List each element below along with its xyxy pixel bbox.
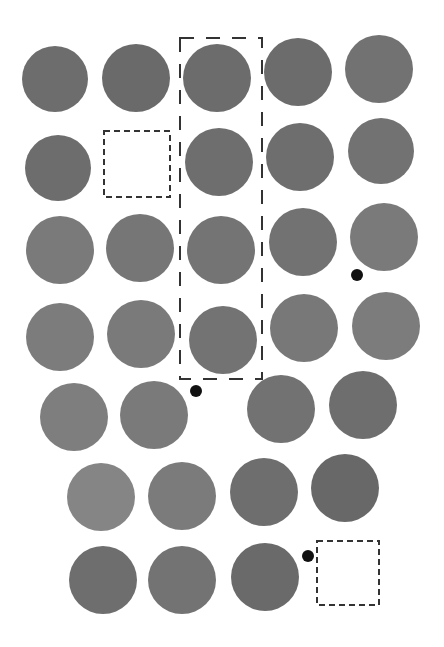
- sample-circle-r6-c3: [230, 458, 298, 526]
- sample-circle-r1-c4: [264, 38, 332, 106]
- sample-circle-r3-c5: [350, 203, 418, 271]
- sample-circle-r3-c3: [187, 216, 255, 284]
- sample-circle-r6-c2: [148, 462, 216, 530]
- sample-circle-r4-c4: [270, 294, 338, 362]
- sample-circle-r5-c5: [329, 371, 397, 439]
- sample-circle-r2-c3: [185, 128, 253, 196]
- sample-circle-r7-c3: [231, 543, 299, 611]
- marker-dot-3: [302, 550, 314, 562]
- sample-circle-r4-c2: [107, 300, 175, 368]
- sample-circle-r4-c3: [189, 306, 257, 374]
- sample-circle-r6-c4: [311, 454, 379, 522]
- sample-circle-r4-c5: [352, 292, 420, 360]
- marker-dot-2: [190, 385, 202, 397]
- sample-circle-r3-c4: [269, 208, 337, 276]
- sample-circle-r7-c1: [69, 546, 137, 614]
- sample-circle-r6-c1: [67, 463, 135, 531]
- sample-circle-r1-c2: [102, 44, 170, 112]
- marker-dot-1: [351, 269, 363, 281]
- sample-circle-r2-c5: [348, 118, 414, 184]
- sample-circle-r2-c4: [266, 123, 334, 191]
- sample-circle-r5-c2: [120, 381, 188, 449]
- sample-circle-r3-c2: [106, 214, 174, 282]
- sample-circle-r3-c1: [26, 216, 94, 284]
- sample-circle-r5-c1: [40, 383, 108, 451]
- sample-circle-r7-c2: [148, 546, 216, 614]
- sample-circle-r5-c4: [247, 375, 315, 443]
- circle-array-diagram: [0, 0, 444, 647]
- sample-circle-r2-c1: [25, 135, 91, 201]
- sample-circle-r1-c5: [345, 35, 413, 103]
- sample-circle-r1-c1: [22, 46, 88, 112]
- sample-circle-r1-c3: [183, 44, 251, 112]
- sample-circle-r4-c1: [26, 303, 94, 371]
